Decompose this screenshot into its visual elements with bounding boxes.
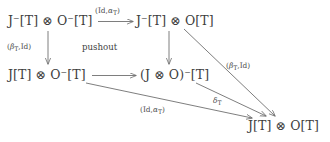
- node-middle-left: J[T] ⊗ O⁻[T]: [8, 69, 86, 82]
- edge-label-delta: δT: [213, 97, 222, 107]
- edge-label-bottom-diagonal: (Id,αT): [140, 106, 165, 116]
- node-top-right: J⁻[T] ⊗ O[T]: [136, 15, 214, 28]
- edge-label-left: (βT,Id): [7, 43, 31, 53]
- node-bottom-right: J[T] ⊗ O[T]: [248, 120, 319, 133]
- commutative-diagram-figure: ...am J⁻[T] ⊗ O⁻[T] J⁻[T] ⊗ O[T] J[T] ⊗ …: [0, 0, 330, 142]
- edge-label-right-diagonal: (βT,Id): [226, 62, 250, 72]
- edge-label-top: (Id,αT): [95, 7, 120, 17]
- arrow-delta-diagonal: [196, 83, 266, 116]
- node-middle-right: (J ⊗ O)⁻[T]: [140, 69, 209, 82]
- arrow-bottom-diagonal: [86, 83, 252, 118]
- node-top-left: J⁻[T] ⊗ O⁻[T]: [8, 15, 92, 28]
- annotation-pushout: pushout: [82, 43, 117, 52]
